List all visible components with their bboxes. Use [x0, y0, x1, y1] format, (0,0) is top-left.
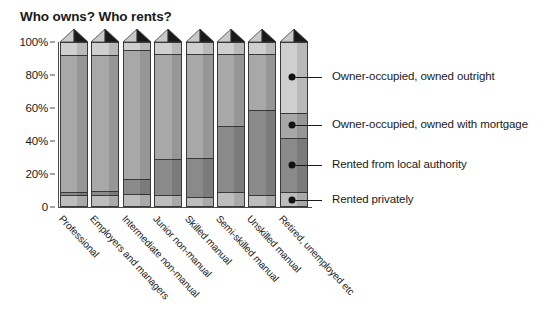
legend-leader-line — [292, 77, 322, 78]
bar-segment — [186, 158, 214, 198]
bar-segment — [91, 42, 119, 55]
bar-segment — [123, 50, 151, 179]
y-tick-mark — [50, 108, 55, 109]
house-roof-icon — [280, 29, 308, 42]
y-tick-mark — [50, 42, 55, 43]
bar-segment — [60, 42, 88, 55]
y-tick-label: 80% — [26, 69, 48, 81]
bar-segment — [248, 54, 276, 110]
bar-segment — [154, 195, 182, 207]
bar-segment — [91, 195, 119, 207]
bar-segment — [60, 195, 88, 207]
bar-segment — [91, 55, 119, 190]
bar-segment — [123, 194, 151, 207]
y-tick-label: 40% — [26, 135, 48, 147]
house-body — [217, 42, 245, 207]
bar-segment — [248, 195, 276, 207]
bar-segment — [217, 192, 245, 207]
bar-segment — [217, 42, 245, 54]
bar-segment — [60, 55, 88, 192]
house-roof-icon — [217, 29, 245, 42]
y-tick-mark — [50, 141, 55, 142]
bar-segment — [186, 54, 214, 158]
bar-segment — [154, 42, 182, 54]
bar-column — [91, 0, 119, 333]
house-roof-icon — [60, 29, 88, 42]
legend-label: Rented privately — [332, 193, 414, 205]
house-roof-icon — [186, 29, 214, 42]
legend-leader-line — [292, 125, 322, 126]
bar-segment — [186, 42, 214, 54]
bar-segment — [91, 191, 119, 196]
y-tick-label: 100% — [19, 36, 48, 48]
bar-segment — [248, 110, 276, 196]
bar-segment — [154, 159, 182, 195]
house-roof-icon — [123, 29, 151, 42]
house-roof-icon — [248, 29, 276, 42]
bar-segment — [248, 42, 276, 54]
house-roof-icon — [91, 29, 119, 42]
y-axis: 100% 80% 60% 40% 20% 0 — [0, 0, 59, 333]
house-body — [154, 42, 182, 207]
y-tick-mark — [50, 75, 55, 76]
bar-segment — [60, 192, 88, 195]
house-body — [123, 42, 151, 207]
bar-column — [60, 0, 88, 333]
y-tick-label: 60% — [26, 102, 48, 114]
y-tick-label: 0 — [42, 201, 48, 213]
bar-column — [217, 0, 245, 333]
legend-label: Rented from local authority — [332, 158, 467, 170]
legend-leader-line — [292, 200, 322, 201]
house-body — [60, 42, 88, 207]
bar-segment — [123, 179, 151, 194]
bar-segment — [217, 54, 245, 127]
legend-label: Owner-occupied, owned outright — [332, 70, 495, 82]
bar-segment — [123, 42, 151, 50]
bar-segment — [186, 197, 214, 207]
y-tick-mark — [50, 174, 55, 175]
bar-segment — [154, 54, 182, 160]
chart-root: Who owns? Who rents? 100% 80% 60% 40% 20… — [0, 0, 547, 333]
y-axis-line — [58, 42, 59, 208]
legend-leader-line — [292, 165, 322, 166]
house-body — [91, 42, 119, 207]
house-roof-icon — [154, 29, 182, 42]
legend-label: Owner-occupied, owned with mortgage — [332, 118, 528, 130]
y-tick-mark — [50, 207, 55, 208]
y-tick-label: 20% — [26, 168, 48, 180]
house-body — [248, 42, 276, 207]
bar-segment — [217, 126, 245, 192]
house-body — [186, 42, 214, 207]
